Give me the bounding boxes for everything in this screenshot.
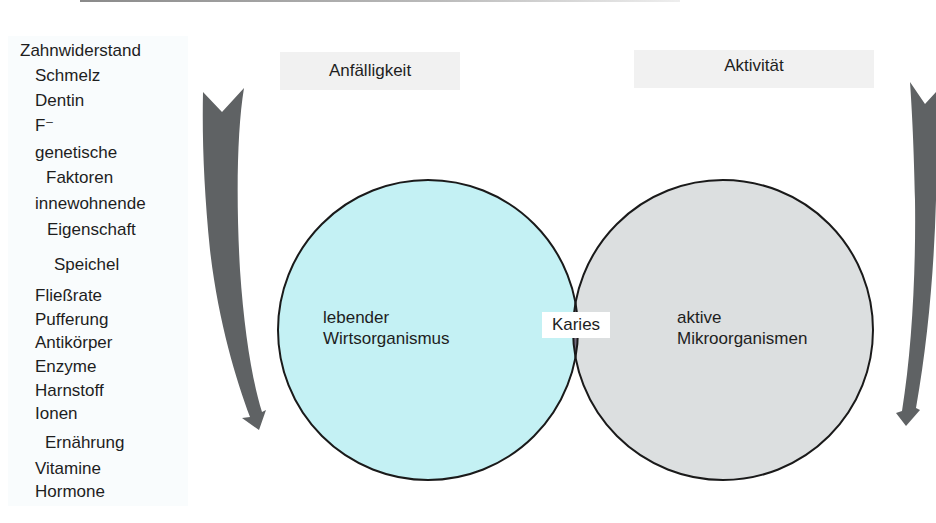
- left-curved-arrow-icon: [203, 88, 266, 430]
- microorganism-label-line2: Mikroorganismen: [677, 328, 807, 349]
- right-curved-arrow-icon: [896, 82, 936, 426]
- microorganism-label: aktive Mikroorganismen: [677, 307, 807, 349]
- microorganism-label-line1: aktive: [677, 307, 807, 328]
- host-label-line1: lebender: [323, 307, 450, 328]
- caries-label: Karies: [542, 312, 610, 338]
- venn-diagram: [0, 0, 936, 523]
- host-label: lebender Wirtsorganismus: [323, 307, 450, 349]
- host-label-line2: Wirtsorganismus: [323, 328, 450, 349]
